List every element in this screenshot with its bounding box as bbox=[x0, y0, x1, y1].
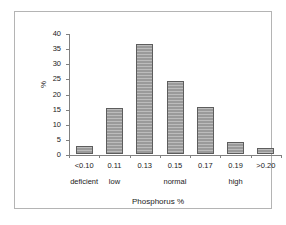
x-axis-line bbox=[69, 155, 281, 156]
y-axis-tick-label: 0 bbox=[57, 151, 61, 159]
figure: 0510152025303540 % <0.100.110.130.150.17… bbox=[0, 0, 286, 225]
x-axis-tick bbox=[69, 155, 70, 158]
x-axis-tick-label: >0.20 bbox=[256, 162, 275, 170]
y-axis-tick-label: 25 bbox=[53, 76, 61, 84]
x-axis-tick bbox=[220, 155, 221, 158]
x-axis-tick-label: 0.13 bbox=[137, 162, 152, 170]
bar bbox=[227, 142, 244, 154]
y-axis-tick: 20 bbox=[66, 95, 69, 96]
x-axis-group-label: normal bbox=[164, 178, 187, 186]
y-axis-tick: 35 bbox=[66, 49, 69, 50]
x-axis-title: Phosphorus % bbox=[15, 198, 286, 206]
x-axis-group-label: low bbox=[109, 178, 120, 186]
x-axis-tick bbox=[251, 155, 252, 158]
y-axis-tick-label: 5 bbox=[57, 136, 61, 144]
bar bbox=[197, 107, 214, 154]
y-axis-tick: 25 bbox=[66, 79, 69, 80]
bar bbox=[167, 81, 184, 154]
x-axis-tick-label: 0.15 bbox=[168, 162, 183, 170]
x-axis-tick-labels: <0.100.110.130.150.170.19>0.20 bbox=[69, 162, 285, 174]
x-axis-tick-label: 0.19 bbox=[228, 162, 243, 170]
x-axis-group-label: high bbox=[228, 178, 242, 186]
y-axis-tick: 5 bbox=[66, 140, 69, 141]
y-axis-title: % bbox=[40, 81, 48, 88]
y-axis-tick-label: 35 bbox=[53, 45, 61, 53]
bar bbox=[106, 108, 123, 154]
y-axis-tick: 10 bbox=[66, 125, 69, 126]
y-axis-line bbox=[69, 34, 70, 156]
x-axis-tick bbox=[160, 155, 161, 158]
y-axis-tick-label: 20 bbox=[53, 91, 61, 99]
y-axis-tick-label: 15 bbox=[53, 106, 61, 114]
plot-area: 0510152025303540 bbox=[69, 34, 285, 155]
x-axis-tick bbox=[281, 155, 282, 158]
y-axis-tick-label: 10 bbox=[53, 121, 61, 129]
bar bbox=[136, 44, 153, 154]
y-axis-tick: 40 bbox=[66, 34, 69, 35]
x-axis-group-label: deficient bbox=[70, 178, 98, 186]
x-axis-tick-label: <0.10 bbox=[75, 162, 94, 170]
x-axis-tick-label: 0.11 bbox=[107, 162, 121, 170]
chart-frame: 0510152025303540 % <0.100.110.130.150.17… bbox=[14, 11, 272, 209]
bar bbox=[257, 148, 274, 154]
x-axis-tick bbox=[130, 155, 131, 158]
x-axis-tick-label: 0.17 bbox=[198, 162, 213, 170]
x-axis-group-labels: deficientlownormalhigh bbox=[69, 178, 285, 190]
bar bbox=[76, 146, 93, 154]
y-axis-tick-label: 40 bbox=[53, 30, 61, 38]
y-axis-tick: 30 bbox=[66, 64, 69, 65]
y-axis-tick-label: 30 bbox=[53, 61, 61, 69]
x-axis-tick bbox=[99, 155, 100, 158]
y-axis-tick: 15 bbox=[66, 110, 69, 111]
x-axis-tick bbox=[190, 155, 191, 158]
